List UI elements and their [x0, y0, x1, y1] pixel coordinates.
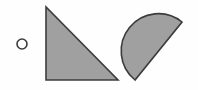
- shapes-svg: [0, 0, 198, 90]
- shapes-canvas: [0, 0, 198, 90]
